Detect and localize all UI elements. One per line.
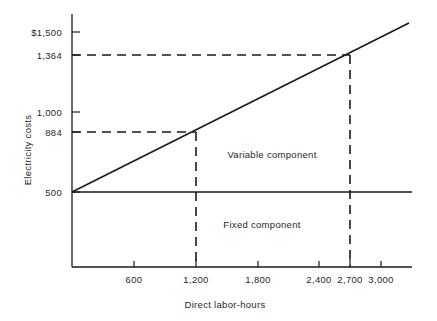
x-tick-label-3000: 3,000 (368, 274, 393, 285)
y-axis-ticks (72, 32, 80, 192)
chart-plot-area (0, 0, 437, 321)
x-axis-ticks (134, 259, 381, 267)
x-tick-label-1200: 1,200 (183, 274, 208, 285)
y-tick-label-500: 500 (18, 187, 62, 198)
x-tick-label-600: 600 (126, 274, 143, 285)
annotation-fixed-component: Fixed component (223, 219, 300, 230)
y-tick-label-1500: $1,500 (18, 27, 62, 38)
x-tick-label-2700: 2,700 (337, 274, 362, 285)
y-tick-label-1364: 1,364 (18, 50, 62, 61)
x-tick-label-2400: 2,400 (306, 274, 331, 285)
y-axis-title: Electricity costs (22, 115, 33, 186)
chart-container: $1,500 1,364 1,000 884 500 600 1,200 1,8… (0, 0, 437, 321)
x-tick-label-1800: 1,800 (245, 274, 270, 285)
annotation-variable-component: Variable component (227, 149, 316, 160)
x-axis-title: Direct labor-hours (185, 299, 266, 310)
total-cost-line (72, 23, 409, 192)
